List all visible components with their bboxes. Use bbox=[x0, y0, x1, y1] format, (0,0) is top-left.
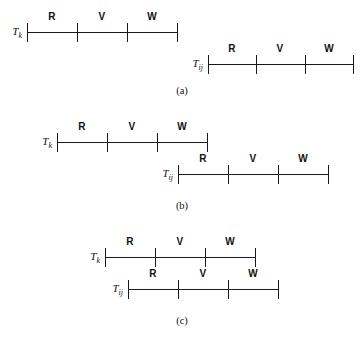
tick-mark bbox=[155, 248, 156, 267]
tick-mark bbox=[208, 55, 209, 74]
row-label-tij: Tij bbox=[112, 281, 128, 297]
panel-caption-b: (b) bbox=[0, 199, 364, 212]
tick-mark bbox=[157, 133, 158, 152]
tick-mark bbox=[207, 133, 208, 152]
panel-caption-a: (a) bbox=[0, 84, 364, 97]
segment-label-r: R bbox=[78, 121, 85, 133]
segment-label-v: V bbox=[177, 236, 184, 248]
tick-mark bbox=[27, 23, 28, 42]
row-label-subscript: ij bbox=[119, 288, 123, 297]
timeline-axis bbox=[208, 64, 353, 65]
segment-label-v: V bbox=[250, 153, 257, 165]
tick-mark bbox=[105, 248, 106, 267]
timeline-c-tij: RVWTij bbox=[128, 275, 278, 305]
tick-mark bbox=[128, 280, 129, 299]
segment-label-r: R bbox=[126, 236, 133, 248]
segment-label-r: R bbox=[149, 268, 156, 280]
segment-label-v: V bbox=[200, 268, 207, 280]
segment-label-r: R bbox=[228, 43, 235, 55]
segment-label-w: W bbox=[225, 236, 235, 248]
tick-mark bbox=[107, 133, 108, 152]
row-label-tij: Tij bbox=[162, 166, 178, 182]
segment-label-w: W bbox=[147, 11, 157, 23]
segment-label-v: V bbox=[129, 121, 136, 133]
segment-label-v: V bbox=[99, 11, 106, 23]
tick-mark bbox=[256, 55, 257, 74]
segment-label-r: R bbox=[199, 153, 206, 165]
tick-mark bbox=[228, 280, 229, 299]
segment-label-w: W bbox=[177, 121, 187, 133]
timeline-axis bbox=[105, 257, 255, 258]
timeline-a-tk: RVWTk bbox=[27, 18, 177, 48]
row-label-subscript: ij bbox=[199, 63, 203, 72]
row-label-tk: Tk bbox=[90, 249, 105, 265]
tick-mark bbox=[178, 165, 179, 184]
segment-label-w: W bbox=[298, 153, 308, 165]
timeline-c-tk: RVWTk bbox=[105, 243, 255, 273]
tick-mark bbox=[328, 165, 329, 184]
row-label-subscript: k bbox=[18, 31, 22, 40]
panel-caption-c: (c) bbox=[0, 314, 364, 327]
timeline-axis bbox=[57, 142, 207, 143]
tick-mark bbox=[77, 23, 78, 42]
row-label-subscript: ij bbox=[169, 173, 173, 182]
segment-label-w: W bbox=[248, 268, 258, 280]
row-label-tk: Tk bbox=[42, 134, 57, 150]
timeline-b-tij: RVWTij bbox=[178, 160, 328, 190]
segment-label-r: R bbox=[48, 11, 55, 23]
row-label-tk: Tk bbox=[12, 24, 27, 40]
tick-mark bbox=[255, 248, 256, 267]
tick-mark bbox=[205, 248, 206, 267]
timeline-axis bbox=[128, 289, 278, 290]
timeline-axis bbox=[27, 32, 177, 33]
tick-mark bbox=[178, 280, 179, 299]
interval-relationship-figure: RVWTkRVWTij(a)RVWTkRVWTij(b)RVWTkRVWTij(… bbox=[0, 0, 364, 346]
segment-label-w: W bbox=[324, 43, 334, 55]
tick-mark bbox=[305, 55, 306, 74]
row-label-tij: Tij bbox=[192, 56, 208, 72]
row-label-subscript: k bbox=[48, 141, 52, 150]
row-label-subscript: k bbox=[96, 256, 100, 265]
tick-mark bbox=[278, 165, 279, 184]
tick-mark bbox=[177, 23, 178, 42]
tick-mark bbox=[353, 55, 354, 74]
segment-label-v: V bbox=[277, 43, 284, 55]
timeline-axis bbox=[178, 174, 328, 175]
timeline-b-tk: RVWTk bbox=[57, 128, 207, 158]
tick-mark bbox=[278, 280, 279, 299]
timeline-a-tij: RVWTij bbox=[208, 50, 353, 80]
tick-mark bbox=[228, 165, 229, 184]
tick-mark bbox=[127, 23, 128, 42]
tick-mark bbox=[57, 133, 58, 152]
